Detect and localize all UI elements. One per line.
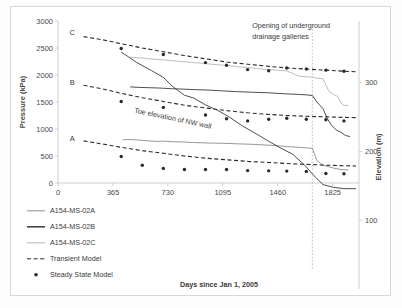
y-tick-label: 0 (49, 179, 53, 188)
y-axis-title: Pressure (kPa) (18, 75, 27, 128)
chart-frame: 0500100015002000250030000365730109514601… (10, 6, 391, 296)
steady-state-point (204, 168, 207, 171)
legend-item[interactable]: Transient Model (27, 254, 102, 263)
steady-state-point (285, 117, 288, 120)
steady-state-point (225, 117, 228, 120)
measured-series-line (123, 140, 349, 171)
steady-state-point (204, 61, 207, 64)
y-tick-label: 500 (40, 152, 53, 161)
legend-item[interactable]: A154-MS-02B (27, 222, 95, 231)
chart-screenshot: 0500100015002000250030000365730109514601… (0, 0, 402, 308)
steady-state-point (267, 169, 270, 172)
steady-state-point (324, 172, 327, 175)
steady-state-point (285, 66, 288, 69)
steady-state-point (285, 169, 288, 172)
annotation-text: Opening of underground (252, 21, 330, 30)
legend-label: A154-MS-02B (50, 222, 95, 231)
y2-tick-label: 100 (365, 216, 378, 225)
y2-axis-title: Elevation (m) (374, 133, 383, 181)
steady-state-point (342, 172, 345, 175)
steady-state-point (183, 168, 186, 171)
steady-state-point (225, 168, 228, 171)
x-tick-label: 1095 (214, 188, 231, 197)
y-tick-label: 1500 (36, 98, 53, 107)
steady-state-point (141, 163, 144, 166)
steady-state-point (267, 69, 270, 72)
series-tag-B: B (70, 78, 75, 87)
transient-model-line (84, 85, 356, 117)
legend-dot-marker (34, 273, 38, 277)
legend-item[interactable]: A154-MS-02A (27, 206, 95, 215)
steady-state-point (305, 67, 308, 70)
steady-state-point (120, 47, 123, 50)
steady-state-point (342, 119, 345, 122)
steady-state-point (305, 170, 308, 173)
steady-state-point (162, 106, 165, 109)
x-tick-label: 1825 (324, 188, 341, 197)
y-tick-label: 2000 (36, 71, 53, 80)
legend-label: Steady State Model (50, 270, 113, 279)
steady-state-point (162, 167, 165, 170)
steady-state-point (342, 70, 345, 73)
y-tick-label: 2500 (36, 44, 53, 53)
x-tick-label: 0 (56, 188, 60, 197)
y-tick-label: 3000 (36, 17, 53, 26)
x-tick-label: 1460 (269, 188, 286, 197)
annotation-text: drainage galleries (252, 32, 309, 41)
steady-state-point (225, 64, 228, 67)
legend-item[interactable]: Steady State Model (34, 270, 113, 279)
legend-label: Transient Model (50, 254, 102, 263)
legend-item[interactable]: A154-MS-02C (27, 238, 96, 247)
steady-state-point (204, 113, 207, 116)
steady-state-point (162, 53, 165, 56)
steady-state-point (324, 68, 327, 71)
steady-state-point (246, 119, 249, 122)
pressure-elevation-chart: 0500100015002000250030000365730109514601… (11, 7, 390, 295)
series-tag-A: A (70, 134, 75, 143)
steady-state-point (120, 155, 123, 158)
series-tag-C: C (70, 28, 76, 37)
transient-model-line (84, 141, 356, 166)
legend-label: A154-MS-02C (50, 238, 96, 247)
legend-label: A154-MS-02A (50, 206, 95, 215)
toe-elevation-line (121, 52, 356, 189)
steady-state-point (246, 169, 249, 172)
measured-series-line (130, 57, 348, 106)
annotation-toe-elevation: Toe elevation of NW wall (133, 106, 212, 131)
x-tick-label: 730 (162, 188, 175, 197)
steady-state-point (246, 68, 249, 71)
x-tick-label: 365 (107, 188, 120, 197)
y-tick-label: 1000 (36, 125, 53, 134)
steady-state-point (305, 118, 308, 121)
steady-state-point (120, 100, 123, 103)
y2-tick-label: 300 (365, 78, 378, 87)
steady-state-point (324, 118, 327, 121)
x-axis-title: Days since Jan 1, 2005 (180, 280, 258, 289)
steady-state-point (267, 118, 270, 121)
